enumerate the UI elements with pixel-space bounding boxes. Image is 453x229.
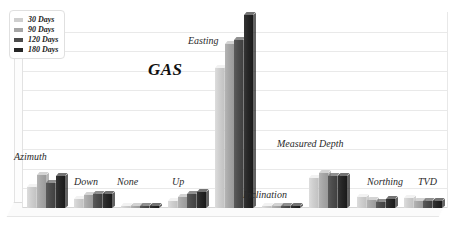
bar [386, 199, 395, 208]
bar-face [121, 206, 130, 208]
bar-face [291, 206, 300, 208]
legend-swatch-icon [14, 28, 23, 32]
legend-item-120-days[interactable]: 120 Days [14, 35, 58, 44]
bar-side [206, 190, 209, 208]
category-label-azimuth: Azimuth [14, 151, 47, 162]
bar [150, 206, 159, 208]
bar-face [338, 176, 347, 208]
bar-face [423, 201, 432, 208]
bar-face [197, 192, 206, 208]
bar [319, 173, 328, 208]
legend-swatch-icon [14, 38, 23, 42]
bar [404, 198, 413, 208]
bar-face [404, 198, 413, 208]
bar-face [178, 197, 187, 208]
bar [74, 199, 83, 208]
category-label-easting: Easting [188, 35, 219, 46]
bar [376, 202, 385, 208]
category-label-measured-depth: Measured Depth [277, 138, 344, 149]
bar [225, 44, 234, 208]
bar [367, 200, 376, 208]
bar [178, 197, 187, 208]
bar-top [37, 172, 49, 175]
legend-label: 180 Days [28, 45, 58, 54]
bar-face [281, 206, 290, 208]
bar-group [357, 197, 395, 208]
legend-label: 90 Days [28, 25, 54, 34]
category-label-northing: Northing [367, 176, 403, 187]
bar-face [433, 201, 442, 208]
legend-item-180-days[interactable]: 180 Days [14, 45, 58, 54]
bar [234, 40, 243, 208]
bar [131, 206, 140, 208]
bar-face [262, 206, 271, 208]
bar [93, 194, 102, 208]
bar-face [367, 200, 376, 208]
bar-side [253, 13, 256, 208]
bar-face [319, 173, 328, 208]
bar [244, 15, 253, 208]
bar [37, 175, 46, 208]
bar-face [27, 187, 36, 208]
bar-group [121, 206, 159, 208]
chart-title: GAS [148, 60, 183, 80]
bar-side [65, 174, 68, 208]
bar [433, 201, 442, 208]
category-label-down: Down [74, 176, 98, 187]
bar-top [244, 12, 256, 15]
legend-swatch-icon [14, 18, 23, 22]
bar [423, 201, 432, 208]
bar-face [234, 40, 243, 208]
bar-face [187, 194, 196, 208]
bar-face [56, 176, 65, 208]
bar [309, 178, 318, 208]
bar-top [386, 196, 398, 199]
bar [197, 192, 206, 208]
bar [121, 206, 130, 208]
bar [281, 206, 290, 208]
bar [272, 206, 281, 208]
bar-top [319, 170, 331, 173]
bar-group [74, 194, 112, 208]
bar-group [404, 198, 442, 208]
legend-label: 30 Days [28, 15, 54, 24]
bar-face [84, 195, 93, 208]
bar-face [309, 178, 318, 208]
bar-face [74, 199, 83, 208]
bar-face [215, 68, 224, 208]
bar [27, 187, 36, 208]
legend-label: 120 Days [28, 35, 58, 44]
bar-face [46, 183, 55, 208]
bar-side [347, 174, 350, 208]
bar-group [215, 15, 253, 208]
bar-face [150, 206, 159, 208]
bar-top [197, 189, 209, 192]
category-label-none: None [117, 176, 138, 187]
bar-side [112, 192, 115, 208]
bar [357, 197, 366, 208]
bar-top [433, 198, 445, 201]
legend-item-90-days[interactable]: 90 Days [14, 25, 58, 34]
bar [103, 194, 112, 208]
legend-swatch-icon [14, 48, 23, 52]
bar-top [103, 191, 115, 194]
category-label-up: Up [172, 176, 184, 187]
gas-bar-chart: AzimuthDownNoneUpEastingInclinationMeasu… [0, 0, 453, 229]
bar-top [338, 173, 350, 176]
bar-face [140, 206, 149, 208]
bar [84, 195, 93, 208]
bar [328, 176, 337, 208]
bar-top [291, 203, 303, 206]
bar [338, 176, 347, 208]
bar-face [37, 175, 46, 208]
bar-face [414, 201, 423, 208]
bar-group [168, 192, 206, 208]
bar [140, 206, 149, 208]
bar [262, 206, 271, 208]
bar [187, 194, 196, 208]
bar [414, 201, 423, 208]
bar [215, 68, 224, 208]
bar [291, 206, 300, 208]
bar-face [244, 15, 253, 208]
legend-item-30-days[interactable]: 30 Days [14, 15, 58, 24]
